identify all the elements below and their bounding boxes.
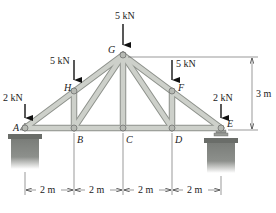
load-label-E: 2 kN bbox=[213, 92, 233, 103]
node-label-D: D bbox=[174, 134, 183, 145]
span-label-CD: 2 m bbox=[138, 184, 154, 195]
span-label-BC: 2 m bbox=[89, 184, 105, 195]
load-label-G: 5 kN bbox=[115, 10, 135, 21]
load-label-H: 5 kN bbox=[50, 55, 70, 66]
node-label-C: C bbox=[126, 134, 133, 145]
node-label-G: G bbox=[108, 44, 115, 55]
node-label-A: A bbox=[12, 122, 20, 133]
load-label-F: 5 kN bbox=[176, 58, 196, 69]
node-label-H: H bbox=[63, 82, 72, 93]
span-label-AB: 2 m bbox=[40, 184, 56, 195]
load-label-A: 2 kN bbox=[3, 92, 23, 103]
support-E-roller bbox=[204, 130, 238, 173]
span-label-DE: 2 m bbox=[187, 184, 203, 195]
node-label-F: F bbox=[177, 82, 185, 93]
height-label: 3 m bbox=[256, 88, 272, 99]
node-label-E: E bbox=[226, 118, 233, 129]
truss-diagram: 2 kN 5 kN 5 kN 5 kN 2 kN A B C D E H G F… bbox=[0, 0, 276, 213]
node-label-B: B bbox=[77, 134, 83, 145]
